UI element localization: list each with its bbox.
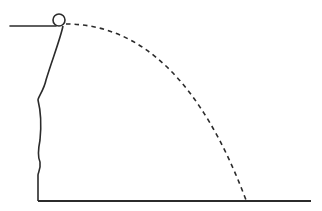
trajectory-dashed-path bbox=[66, 24, 246, 200]
projectile-diagram: Projectile launched horizontally from a … bbox=[0, 0, 322, 211]
diagram-canvas bbox=[0, 0, 322, 211]
cliff-face bbox=[38, 26, 63, 201]
ball-projectile bbox=[53, 14, 65, 26]
